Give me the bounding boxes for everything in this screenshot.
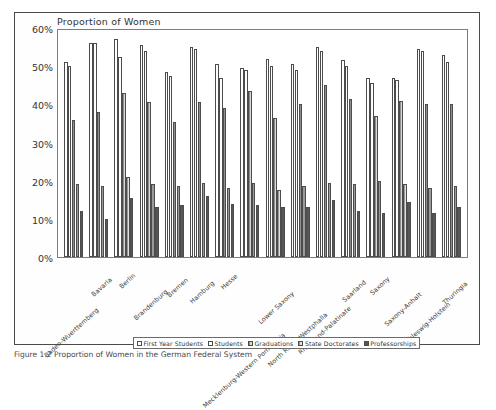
bar bbox=[252, 183, 255, 257]
legend-label: Professorships bbox=[370, 340, 416, 347]
bar bbox=[291, 64, 294, 257]
x-axis: Baden-WuerttembergBavariaBerlinBrandenbu… bbox=[57, 259, 468, 325]
bar bbox=[370, 83, 373, 257]
legend-item: Students bbox=[208, 340, 243, 347]
bar bbox=[295, 70, 298, 257]
bar bbox=[72, 120, 75, 257]
bar bbox=[130, 198, 133, 257]
bar bbox=[446, 62, 449, 257]
bar bbox=[457, 207, 460, 257]
y-tick-label: 60% bbox=[32, 24, 53, 35]
x-tick-label: Saxony-Anhalt bbox=[383, 291, 424, 329]
bar bbox=[328, 183, 331, 257]
legend-item: Professorships bbox=[364, 340, 417, 347]
bar bbox=[450, 104, 453, 257]
bar bbox=[403, 184, 406, 257]
legend-label: State Doctorates bbox=[305, 340, 359, 347]
bar bbox=[392, 78, 395, 257]
bar bbox=[378, 181, 381, 257]
bar-group bbox=[338, 30, 363, 257]
x-tick-label: Brandenburg bbox=[132, 288, 169, 323]
x-tick-label: Saarland bbox=[341, 278, 368, 303]
bar bbox=[202, 183, 205, 257]
bar bbox=[64, 62, 67, 257]
x-tick-label: Thuringia bbox=[441, 280, 469, 307]
bar bbox=[316, 47, 319, 257]
bar-group bbox=[313, 30, 338, 257]
y-tick-label: 20% bbox=[32, 176, 53, 187]
bar bbox=[417, 49, 420, 257]
y-tick-label: 50% bbox=[32, 62, 53, 73]
bar bbox=[428, 188, 431, 257]
legend-label: Students bbox=[215, 340, 243, 347]
bar-group bbox=[414, 30, 439, 257]
bar bbox=[302, 186, 305, 257]
bar-group bbox=[212, 30, 237, 257]
y-tick-label: 40% bbox=[32, 100, 53, 111]
legend-swatch-icon bbox=[364, 341, 369, 346]
bar bbox=[198, 102, 201, 257]
bar-group bbox=[288, 30, 313, 257]
bar bbox=[442, 55, 445, 257]
bar bbox=[190, 47, 193, 257]
bar-group bbox=[111, 30, 136, 257]
bar bbox=[345, 66, 348, 257]
legend-label: First Year Students bbox=[144, 340, 204, 347]
bar-group bbox=[86, 30, 111, 257]
bar bbox=[89, 43, 92, 257]
bar bbox=[320, 51, 323, 257]
bar-group bbox=[388, 30, 413, 257]
bar bbox=[353, 184, 356, 257]
bar bbox=[256, 205, 259, 257]
bar bbox=[206, 196, 209, 257]
bar bbox=[118, 57, 121, 257]
bar bbox=[147, 102, 150, 257]
bar bbox=[140, 45, 143, 257]
bar-group bbox=[263, 30, 288, 257]
bar-group bbox=[439, 30, 464, 257]
bar bbox=[177, 186, 180, 257]
figure-frame: Proportion of Women 0%10%20%30%40%50%60%… bbox=[14, 12, 480, 345]
bar bbox=[270, 66, 273, 257]
y-tick-label: 0% bbox=[38, 253, 53, 264]
legend-item: First Year Students bbox=[137, 340, 203, 347]
bar-group bbox=[187, 30, 212, 257]
bar bbox=[273, 118, 276, 257]
bar bbox=[332, 200, 335, 257]
bar bbox=[227, 188, 230, 257]
y-axis: 0%10%20%30%40%50%60% bbox=[17, 29, 53, 258]
bar bbox=[240, 68, 243, 257]
bar bbox=[223, 108, 226, 257]
bar bbox=[407, 202, 410, 257]
y-tick-label: 30% bbox=[32, 138, 53, 149]
plot-area bbox=[57, 29, 468, 258]
bar bbox=[169, 76, 172, 257]
bar-group bbox=[363, 30, 388, 257]
y-tick-label: 10% bbox=[32, 214, 53, 225]
legend-item: Graduations bbox=[248, 340, 293, 347]
legend-swatch-icon bbox=[208, 341, 213, 346]
bar bbox=[399, 101, 402, 257]
bar bbox=[306, 207, 309, 257]
bar bbox=[395, 80, 398, 257]
bar bbox=[266, 59, 269, 257]
chart-legend: First Year StudentsStudentsGraduationsSt… bbox=[133, 337, 420, 349]
x-tick-label: Hesse bbox=[219, 272, 239, 291]
bar bbox=[341, 60, 344, 257]
bar bbox=[454, 186, 457, 257]
x-tick-label: Berlin bbox=[118, 272, 138, 291]
bar bbox=[155, 207, 158, 257]
chart-title: Proportion of Women bbox=[57, 16, 161, 27]
bar bbox=[324, 85, 327, 257]
bar bbox=[126, 177, 129, 257]
legend-swatch-icon bbox=[298, 341, 303, 346]
x-tick-label: Bavaria bbox=[90, 276, 114, 299]
bar bbox=[173, 122, 176, 257]
bar bbox=[101, 186, 104, 257]
bar bbox=[281, 207, 284, 257]
legend-item: State Doctorates bbox=[298, 340, 358, 347]
bar-group bbox=[237, 30, 262, 257]
bar bbox=[97, 112, 100, 257]
bar bbox=[421, 51, 424, 257]
bar bbox=[151, 184, 154, 257]
